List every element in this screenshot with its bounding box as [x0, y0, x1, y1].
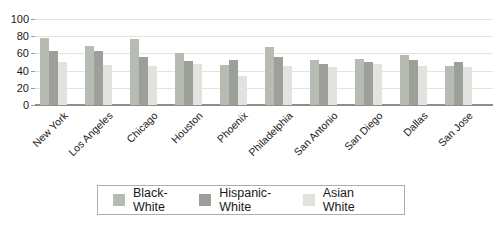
- legend-swatch-asian-white: [303, 194, 315, 206]
- y-axis-tick-label: 20: [2, 83, 29, 94]
- y-gridline: [35, 53, 493, 54]
- bar: [418, 66, 427, 105]
- bar: [49, 51, 58, 105]
- legend-swatch-hispanic-white: [199, 194, 211, 206]
- bar: [274, 57, 283, 105]
- bar: [310, 60, 319, 105]
- bar: [103, 65, 112, 105]
- bar: [130, 39, 139, 105]
- bar: [94, 51, 103, 105]
- bar: [238, 76, 247, 105]
- legend-swatch-black-white: [113, 194, 125, 206]
- bar: [355, 59, 364, 105]
- y-axis-tick-mark: [31, 105, 35, 106]
- legend-label-asian-white: Asian White: [323, 186, 389, 214]
- y-axis-tick-label: 60: [2, 48, 29, 59]
- y-axis-tick-mark: [31, 88, 35, 89]
- legend: Black-White Hispanic-White Asian White: [97, 185, 405, 215]
- bar: [454, 62, 463, 105]
- bar: [184, 61, 193, 105]
- legend-label-hispanic-white: Hispanic-White: [219, 186, 303, 214]
- legend-item: Black-White: [113, 186, 199, 214]
- y-axis-tick-label: 100: [2, 14, 29, 25]
- bar: [400, 55, 409, 105]
- y-axis-tick-mark: [31, 36, 35, 37]
- y-axis-tick-mark: [31, 71, 35, 72]
- y-axis-tick-label: 80: [2, 31, 29, 42]
- bar: [445, 66, 454, 105]
- legend-item: Hispanic-White: [199, 186, 303, 214]
- bar: [40, 38, 49, 105]
- bar: [409, 60, 418, 105]
- bar-chart: Black-White Hispanic-White Asian White 0…: [0, 0, 499, 226]
- bar: [463, 67, 472, 105]
- y-axis-tick-label: 40: [2, 66, 29, 77]
- bar: [373, 64, 382, 105]
- bar: [58, 62, 67, 105]
- bar: [220, 65, 229, 105]
- bar: [85, 46, 94, 105]
- bar: [319, 64, 328, 105]
- bar: [175, 53, 184, 105]
- bar: [148, 66, 157, 105]
- bar: [328, 67, 337, 105]
- bar: [193, 64, 202, 105]
- y-axis-tick-label: 0: [2, 100, 29, 111]
- y-gridline: [35, 36, 493, 37]
- bar: [229, 60, 238, 105]
- legend-item: Asian White: [303, 186, 389, 214]
- bar: [139, 57, 148, 105]
- plot-area: [35, 19, 493, 105]
- y-axis-tick-mark: [31, 53, 35, 54]
- bar: [283, 66, 292, 105]
- y-gridline: [35, 19, 493, 20]
- legend-label-black-white: Black-White: [133, 186, 199, 214]
- bar: [265, 47, 274, 105]
- y-axis-tick-mark: [31, 19, 35, 20]
- bar: [364, 62, 373, 105]
